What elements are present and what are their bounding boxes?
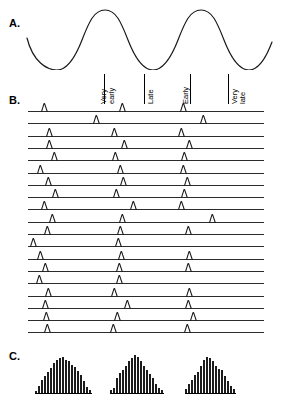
panel-c-histograms: [0, 348, 281, 401]
histogram-bar: [83, 381, 85, 393]
raster-row: [28, 198, 264, 210]
histogram-bar: [218, 369, 220, 393]
spike-mark: [184, 177, 191, 186]
histogram-bar: [206, 357, 208, 393]
raster-row: [28, 260, 264, 272]
spike-mark: [44, 226, 51, 235]
histogram-bar: [41, 380, 43, 393]
spike-mark: [49, 214, 56, 223]
spike-mark: [111, 288, 118, 297]
spike-mark: [52, 189, 59, 198]
spike-mark: [181, 189, 188, 198]
panel-b-raster: [0, 100, 281, 343]
histogram-bar: [143, 366, 145, 393]
histogram-bar: [191, 380, 193, 393]
histogram-bar: [71, 365, 73, 394]
histogram-bar: [77, 371, 79, 393]
histogram-bar: [125, 366, 127, 393]
raster-row: [28, 321, 264, 333]
spike-mark: [42, 300, 49, 309]
histogram-bar: [200, 366, 202, 393]
histogram-bar: [128, 361, 130, 393]
spike-mark: [185, 226, 192, 235]
histogram-bar: [47, 372, 49, 393]
spike-mark: [186, 140, 193, 149]
raster-row: [28, 297, 264, 309]
histogram-bar: [149, 374, 151, 393]
panel-a-oscillation: [0, 0, 281, 70]
spike-mark: [45, 288, 52, 297]
spike-mark: [41, 103, 48, 112]
raster-row: [28, 137, 264, 149]
histogram-bar: [59, 358, 61, 393]
spike-mark: [51, 152, 58, 161]
spike-mark: [30, 238, 37, 247]
spike-mark: [116, 275, 123, 284]
histogram-bar: [80, 375, 82, 393]
spike-mark: [110, 324, 117, 333]
phase-histogram: [35, 355, 91, 393]
histogram-bar: [194, 375, 196, 393]
histogram-bar: [212, 361, 214, 393]
spike-mark: [117, 165, 124, 174]
raster-row: [28, 186, 264, 198]
phase-histogram: [185, 355, 235, 393]
spike-mark: [181, 152, 188, 161]
spike-mark: [185, 300, 192, 309]
spike-mark: [37, 165, 44, 174]
histogram-bar: [155, 384, 157, 394]
spike-mark: [200, 115, 207, 124]
spike-mark: [178, 128, 185, 137]
histogram-bar: [137, 357, 139, 393]
spike-mark: [120, 177, 127, 186]
histogram-bar: [74, 367, 76, 393]
raster-baseline: [28, 332, 264, 333]
spike-mark: [209, 214, 216, 223]
raster-row: [28, 223, 264, 235]
spike-mark: [190, 312, 197, 321]
spike-mark: [116, 263, 123, 272]
raster-row: [28, 211, 264, 223]
histogram-bar: [122, 370, 124, 393]
raster-row: [28, 285, 264, 297]
spike-mark: [178, 201, 185, 210]
histogram-bar: [197, 372, 199, 393]
spike-mark: [114, 312, 121, 321]
spike-mark: [118, 251, 125, 260]
spike-mark: [46, 128, 53, 137]
histogram-bar: [209, 358, 211, 393]
raster-row: [28, 149, 264, 161]
raster-row: [28, 100, 264, 112]
histogram-bar: [215, 366, 217, 393]
raster-row: [28, 248, 264, 260]
spike-mark: [119, 214, 126, 223]
spike-mark: [115, 238, 122, 247]
histogram-bar: [38, 386, 40, 393]
spike-mark: [186, 251, 193, 260]
oscillation-waveform: [0, 0, 281, 70]
histogram-bar: [116, 378, 118, 393]
histogram-bar: [119, 373, 121, 393]
phase-histogram: [110, 355, 163, 393]
spike-mark: [111, 128, 118, 137]
spike-mark: [43, 312, 50, 321]
spike-mark: [121, 140, 128, 149]
raster-row: [28, 162, 264, 174]
raster-row: [28, 309, 264, 321]
spike-mark: [112, 152, 119, 161]
histogram-bar: [53, 363, 55, 393]
spike-mark: [186, 288, 193, 297]
spike-mark: [117, 226, 124, 235]
histogram-bar: [62, 357, 64, 393]
spike-mark: [42, 263, 49, 272]
spike-mark: [37, 251, 44, 260]
figure-root: A. Very early Late Early Very late B. C.: [0, 0, 281, 401]
raster-row: [28, 125, 264, 137]
spike-mark: [185, 263, 192, 272]
raster-row: [28, 272, 264, 284]
histogram-bar: [224, 376, 226, 393]
histogram-bar: [131, 358, 133, 393]
histogram-bar: [50, 368, 52, 393]
histogram-bar: [203, 360, 205, 393]
spike-mark: [180, 165, 187, 174]
